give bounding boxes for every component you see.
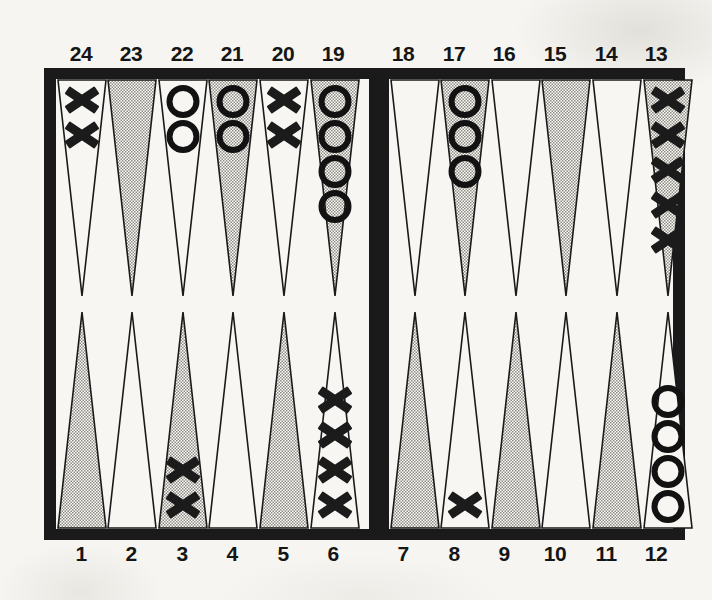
point-1[interactable] [57,311,107,529]
point-number-8: 8 [434,541,474,567]
point-4[interactable] [208,311,258,529]
center-bar[interactable] [369,79,389,529]
point-18[interactable] [390,79,440,297]
point-number-14: 14 [586,41,626,67]
point-12[interactable] [643,311,693,529]
point-9[interactable] [491,311,541,529]
point-6[interactable] [310,311,360,529]
point-number-19: 19 [313,41,353,67]
point-14[interactable] [592,79,642,297]
point-17[interactable] [440,79,490,297]
point-7[interactable] [390,311,440,529]
point-number-6: 6 [313,541,353,567]
point-number-16: 16 [484,41,524,67]
point-number-15: 15 [535,41,575,67]
quadrant-top-right [389,79,694,304]
point-22[interactable] [158,79,208,297]
point-16[interactable] [491,79,541,297]
point-19[interactable] [310,79,360,297]
point-number-10: 10 [535,541,575,567]
point-number-9: 9 [484,541,524,567]
point-8[interactable] [440,311,490,529]
point-20[interactable] [259,79,309,297]
bottom-point-number-row: 123456789101112 [0,541,712,567]
point-23[interactable] [107,79,157,297]
point-number-21: 21 [212,41,252,67]
point-13[interactable] [643,79,693,297]
point-number-11: 11 [586,541,626,567]
point-10[interactable] [541,311,591,529]
board-frame [44,68,685,540]
quadrant-top-left [56,79,361,304]
point-number-13: 13 [636,41,676,67]
point-2[interactable] [107,311,157,529]
point-number-12: 12 [636,541,676,567]
point-number-24: 24 [61,41,101,67]
point-3[interactable] [158,311,208,529]
quadrant-bottom-left [56,304,361,529]
point-11[interactable] [592,311,642,529]
point-number-23: 23 [111,41,151,67]
point-number-18: 18 [383,41,423,67]
point-5[interactable] [259,311,309,529]
point-number-2: 2 [111,541,151,567]
point-number-22: 22 [162,41,202,67]
point-number-20: 20 [263,41,303,67]
point-number-7: 7 [383,541,423,567]
quadrant-bottom-right [389,304,694,529]
point-21[interactable] [208,79,258,297]
top-point-number-row: 242322212019181716151413 [0,41,712,67]
point-number-3: 3 [162,541,202,567]
point-24[interactable] [57,79,107,297]
point-number-1: 1 [61,541,101,567]
point-number-4: 4 [212,541,252,567]
point-15[interactable] [541,79,591,297]
board-playing-field [56,79,673,529]
point-number-5: 5 [263,541,303,567]
point-number-17: 17 [434,41,474,67]
